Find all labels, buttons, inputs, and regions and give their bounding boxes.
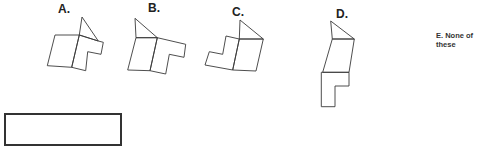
option-a-label[interactable]: A. (58, 3, 70, 15)
option-c-label[interactable]: C. (232, 6, 244, 18)
option-d-label[interactable]: D. (336, 8, 348, 20)
figure-c-right-square (233, 39, 264, 71)
figure-option-c[interactable] (205, 20, 263, 71)
figure-b-l-shape (150, 38, 186, 74)
figure-c-triangle (239, 20, 263, 39)
figure-d-parallelogram (323, 39, 355, 72)
figure-c-l-shape (205, 36, 239, 70)
figure-b-triangle (135, 18, 157, 37)
option-e-label[interactable]: E. None of these (436, 32, 481, 49)
figure-option-a[interactable] (47, 17, 103, 71)
answer-box[interactable] (4, 113, 122, 146)
figure-option-b[interactable] (128, 18, 186, 74)
figure-b-left-square (128, 38, 158, 71)
figure-a-l-shape (72, 35, 104, 71)
figure-d-triangle (331, 21, 355, 39)
figure-d-l-shape (321, 72, 349, 106)
figure-a-triangle (79, 17, 98, 41)
figure-option-d[interactable] (321, 21, 354, 107)
figure-a-left-square (47, 35, 79, 67)
option-b-label[interactable]: B. (148, 2, 160, 14)
